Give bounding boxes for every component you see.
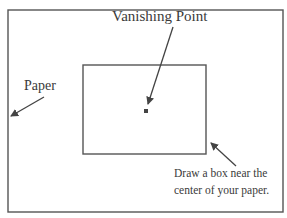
instruction-line-1: Draw a box near the (174, 165, 267, 182)
box-arrow (211, 143, 236, 166)
vanishing-point-label: Vanishing Point (112, 9, 207, 24)
paper-arrow (11, 97, 44, 116)
instruction-line-2: center of your paper. (174, 182, 269, 199)
vanishing-point-marker (144, 109, 148, 113)
perspective-diagram: Vanishing Point Paper Draw a box near th… (0, 0, 287, 218)
paper-label: Paper (24, 79, 56, 93)
